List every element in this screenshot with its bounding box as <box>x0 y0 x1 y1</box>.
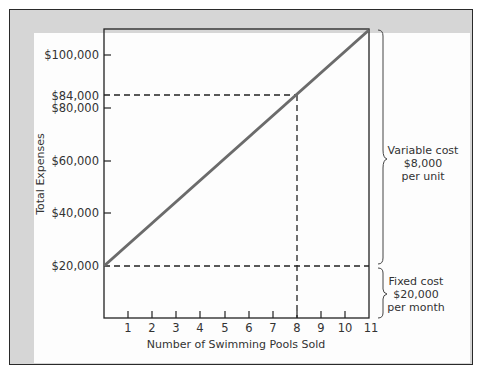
x-label: 3 <box>172 321 179 335</box>
y-axis-title: Total Expenses <box>34 133 47 216</box>
fixed-cost-unit: per month <box>387 301 444 314</box>
variable-cost-label: Variable cost <box>388 144 460 157</box>
cost-chart: $100,000 $84,000 $80,000 $60,000 $40,000… <box>0 0 482 374</box>
x-axis-title: Number of Swimming Pools Sold <box>147 338 326 351</box>
total-expense-line <box>104 30 369 266</box>
x-label: 8 <box>293 321 300 335</box>
y-tick-labels: $100,000 $84,000 $80,000 $60,000 $40,000… <box>44 48 99 273</box>
x-label: 1 <box>124 321 131 335</box>
x-ticks <box>128 311 345 318</box>
x-label: 5 <box>221 321 228 335</box>
y-label-40000: $40,000 <box>51 206 99 220</box>
variable-cost-value: $8,000 <box>404 157 443 170</box>
variable-cost-unit: per unit <box>401 170 445 183</box>
y-label-100000: $100,000 <box>44 48 99 62</box>
fixed-cost-value: $20,000 <box>393 288 439 301</box>
reference-lines <box>104 95 369 318</box>
fixed-cost-label: Fixed cost <box>389 275 445 288</box>
fixed-cost-brace <box>378 268 387 318</box>
y-ticks <box>104 55 111 213</box>
y-label-20000: $20,000 <box>51 259 99 273</box>
y-label-80000: $80,000 <box>51 101 99 115</box>
variable-cost-note: Variable cost $8,000 per unit <box>388 144 460 183</box>
variable-cost-brace <box>378 30 387 264</box>
x-label: 11 <box>364 321 379 335</box>
x-label: 10 <box>338 321 353 335</box>
plot-area <box>104 29 369 318</box>
x-label: 7 <box>269 321 276 335</box>
x-tick-labels: 1 2 3 4 5 6 7 8 9 10 11 <box>124 321 378 335</box>
fixed-cost-note: Fixed cost $20,000 per month <box>387 275 444 314</box>
y-label-60000: $60,000 <box>51 154 99 168</box>
x-label: 2 <box>148 321 155 335</box>
x-label: 9 <box>317 321 324 335</box>
x-label: 6 <box>245 321 252 335</box>
x-label: 4 <box>196 321 203 335</box>
